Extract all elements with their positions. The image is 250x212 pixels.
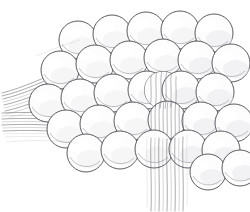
sphere xyxy=(101,131,139,169)
figure-root: Hexagonal close-packed sphere cluster wi… xyxy=(0,0,250,212)
sphere-cluster-illustration xyxy=(0,0,250,212)
sphere xyxy=(190,154,226,190)
sphere xyxy=(135,130,173,168)
sphere xyxy=(67,134,105,172)
